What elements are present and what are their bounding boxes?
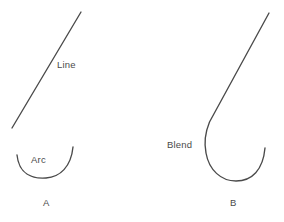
figure-canvas: Line Arc A Blend B <box>0 0 284 222</box>
label-line: Line <box>57 60 76 70</box>
panel-a-line-path <box>12 12 81 128</box>
geometry-drawing <box>0 0 284 222</box>
panel-b-blend-path <box>205 13 269 181</box>
label-blend: Blend <box>167 140 192 150</box>
label-arc: Arc <box>31 155 46 165</box>
panel-letter-a: A <box>43 198 49 208</box>
panel-letter-b: B <box>230 198 236 208</box>
